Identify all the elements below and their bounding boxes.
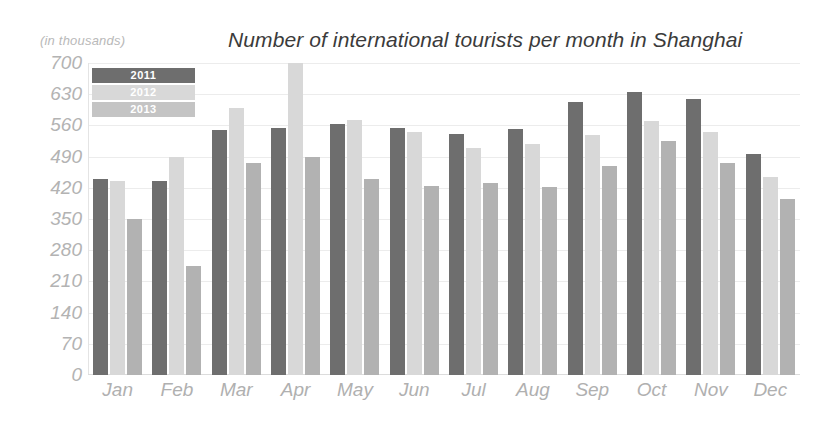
x-axis-tick-label-oct: Oct — [622, 379, 681, 413]
x-axis-tick-label-nov: Nov — [681, 379, 740, 413]
bar-jan-2012[interactable] — [110, 181, 125, 375]
y-axis-tick-label: 70 — [61, 333, 82, 355]
legend-label-2011: 2011 — [92, 68, 195, 83]
x-axis-tick-label-aug: Aug — [503, 379, 562, 413]
bar-oct-2012[interactable] — [644, 121, 659, 375]
bar-sep-2012[interactable] — [585, 135, 600, 375]
month-group-apr — [266, 63, 325, 375]
bar-aug-2013[interactable] — [542, 187, 557, 375]
chart-legend: 201120122013 — [92, 68, 195, 119]
bar-jul-2011[interactable] — [449, 134, 464, 375]
bar-dec-2011[interactable] — [746, 154, 761, 375]
bar-oct-2011[interactable] — [627, 92, 642, 375]
y-axis-tick-label: 420 — [50, 177, 82, 199]
y-axis-tick-label: 0 — [71, 364, 82, 386]
month-group-dec — [741, 63, 800, 375]
month-group-may — [325, 63, 384, 375]
bar-jun-2013[interactable] — [424, 186, 439, 375]
bar-jan-2013[interactable] — [127, 219, 142, 375]
bar-may-2011[interactable] — [330, 124, 345, 375]
x-axis-tick-label-sep: Sep — [563, 379, 622, 413]
legend-item-2013[interactable]: 2013 — [92, 102, 195, 117]
legend-label-2012: 2012 — [92, 85, 195, 100]
bar-sep-2011[interactable] — [568, 102, 583, 375]
bar-jun-2011[interactable] — [390, 128, 405, 375]
bar-nov-2013[interactable] — [720, 163, 735, 375]
bar-aug-2012[interactable] — [525, 144, 540, 375]
bar-oct-2013[interactable] — [661, 141, 676, 375]
bar-jul-2013[interactable] — [483, 183, 498, 375]
y-axis-tick-label: 490 — [50, 146, 82, 168]
y-axis-tick-label: 280 — [50, 239, 82, 261]
bar-feb-2013[interactable] — [186, 266, 201, 375]
y-axis: 700630560490420350280210140700 — [30, 63, 82, 375]
bar-jun-2012[interactable] — [407, 132, 422, 375]
x-axis-tick-label-jan: Jan — [88, 379, 147, 413]
bar-may-2012[interactable] — [347, 120, 362, 375]
y-axis-tick-label: 560 — [50, 114, 82, 136]
bar-feb-2011[interactable] — [152, 181, 167, 375]
bar-feb-2012[interactable] — [169, 157, 184, 375]
legend-label-2013: 2013 — [92, 102, 195, 117]
x-axis-tick-label-may: May — [325, 379, 384, 413]
month-group-sep — [563, 63, 622, 375]
y-axis-tick-label: 700 — [50, 52, 82, 74]
bar-dec-2013[interactable] — [780, 199, 795, 375]
bar-jan-2011[interactable] — [93, 179, 108, 375]
x-axis-tick-label-dec: Dec — [741, 379, 800, 413]
x-axis-tick-label-jun: Jun — [385, 379, 444, 413]
bar-aug-2011[interactable] — [508, 129, 523, 375]
units-note: (in thousands) — [40, 33, 125, 48]
bar-jul-2012[interactable] — [466, 148, 481, 375]
y-axis-tick-label: 210 — [50, 270, 82, 292]
x-axis: JanFebMarAprMayJunJulAugSepOctNovDec — [88, 379, 800, 413]
month-group-nov — [681, 63, 740, 375]
legend-item-2012[interactable]: 2012 — [92, 85, 195, 100]
y-axis-tick-label: 350 — [50, 208, 82, 230]
bar-mar-2012[interactable] — [229, 108, 244, 375]
bar-mar-2013[interactable] — [246, 163, 261, 375]
month-group-oct — [622, 63, 681, 375]
x-axis-tick-label-apr: Apr — [266, 379, 325, 413]
y-axis-tick-label: 140 — [50, 302, 82, 324]
month-group-jul — [444, 63, 503, 375]
x-axis-tick-label-feb: Feb — [147, 379, 206, 413]
bar-apr-2011[interactable] — [271, 128, 286, 375]
bar-mar-2011[interactable] — [212, 130, 227, 375]
month-group-aug — [503, 63, 562, 375]
bar-sep-2013[interactable] — [602, 166, 617, 375]
bar-may-2013[interactable] — [364, 179, 379, 375]
bar-apr-2013[interactable] — [305, 157, 320, 375]
bar-apr-2012[interactable] — [288, 63, 303, 375]
x-axis-tick-label-jul: Jul — [444, 379, 503, 413]
month-group-mar — [207, 63, 266, 375]
chart-title: Number of international tourists per mon… — [228, 28, 742, 52]
y-axis-tick-label: 630 — [50, 83, 82, 105]
bar-dec-2012[interactable] — [763, 177, 778, 375]
month-group-jun — [385, 63, 444, 375]
x-axis-tick-label-mar: Mar — [207, 379, 266, 413]
bar-nov-2012[interactable] — [703, 132, 718, 375]
bar-nov-2011[interactable] — [686, 99, 701, 375]
legend-item-2011[interactable]: 2011 — [92, 68, 195, 83]
chart-page: (in thousands) Number of international t… — [0, 0, 820, 436]
